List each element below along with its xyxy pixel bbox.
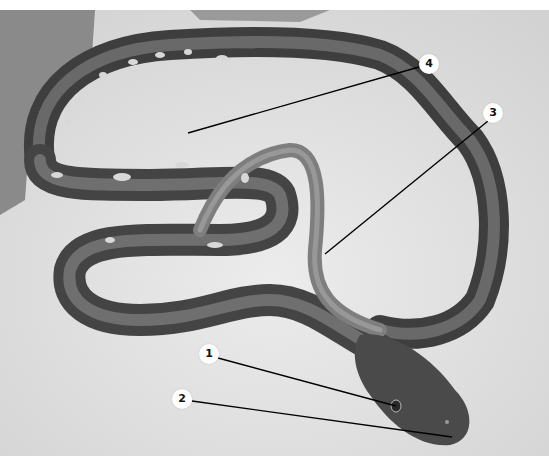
callout-4-body: 4 bbox=[419, 54, 439, 74]
leader-line-2 bbox=[192, 401, 452, 437]
figure: 1 2 3 4 bbox=[0, 0, 549, 466]
leader-line-3 bbox=[325, 121, 488, 254]
snake-photo bbox=[0, 10, 549, 456]
callout-lines bbox=[0, 10, 549, 456]
leader-line-1 bbox=[218, 358, 396, 406]
callout-2-jaw: 2 bbox=[172, 389, 192, 409]
callout-1-eye: 1 bbox=[199, 344, 219, 364]
callout-3-tail: 3 bbox=[483, 103, 503, 123]
leader-line-4 bbox=[188, 67, 419, 133]
